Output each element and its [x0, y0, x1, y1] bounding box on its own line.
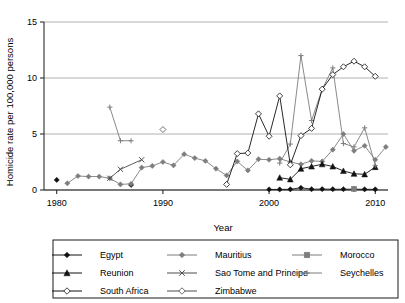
- marker-filled-diamond: [97, 174, 102, 179]
- x-tick-label-1980: 1980: [47, 198, 67, 208]
- x-tick-label-2000: 2000: [259, 198, 279, 208]
- marker-filled-diamond: [373, 187, 378, 192]
- marker-plus: [118, 138, 123, 143]
- marker-open-diamond: [160, 127, 166, 133]
- legend-item-reunion[interactable]: Reunion: [52, 268, 134, 278]
- legend-item-egypt[interactable]: Egypt: [52, 250, 124, 260]
- marker-filled-diamond: [118, 182, 123, 187]
- marker-filled-diamond: [330, 187, 335, 192]
- marker-filled-square: [304, 252, 310, 258]
- legend-label: Morocco: [340, 250, 375, 260]
- x-tick-label-2010: 2010: [365, 198, 385, 208]
- gridlines: [44, 22, 388, 190]
- legend-item-zimbabwe[interactable]: Zimbabwe: [167, 286, 257, 296]
- marker-filled-diamond: [362, 187, 367, 192]
- marker-plus: [362, 125, 367, 130]
- marker-plus: [288, 141, 293, 146]
- legend-label: Egypt: [100, 250, 124, 260]
- y-tick-label-10: 10: [27, 73, 37, 83]
- legend-item-south-africa[interactable]: South Africa: [52, 286, 149, 296]
- series-zimbabwe: [160, 127, 166, 133]
- legend-item-mauritius[interactable]: Mauritius: [167, 250, 252, 260]
- marker-filled-diamond: [277, 187, 282, 192]
- legend-label: Mauritius: [215, 250, 252, 260]
- y-axis-label: Homicide rate per 100,000 persons: [4, 38, 15, 187]
- axes: [44, 22, 388, 190]
- marker-filled-diamond: [64, 252, 70, 258]
- marker-filled-triangle: [341, 168, 347, 174]
- marker-open-diamond: [309, 125, 315, 131]
- y-tick-label-15: 15: [27, 17, 37, 27]
- legend-label: Seychelles: [340, 268, 384, 278]
- marker-plus: [330, 65, 335, 70]
- marker-filled-diamond: [309, 187, 314, 192]
- legend-label: Reunion: [100, 268, 134, 278]
- series-sao-tome-and-principe: [107, 157, 144, 181]
- marker-open-diamond: [255, 111, 261, 117]
- legend-item-morocco[interactable]: Morocco: [292, 250, 375, 260]
- series-morocco: [351, 186, 356, 191]
- marker-open-diamond: [319, 86, 325, 92]
- marker-open-diamond: [64, 288, 70, 294]
- marker-filled-triangle: [277, 175, 283, 181]
- marker-x-cross: [118, 167, 123, 172]
- x-axis-label: Year: [213, 222, 232, 233]
- series-line: [280, 164, 376, 179]
- marker-filled-diamond: [150, 163, 155, 168]
- marker-open-diamond: [234, 151, 240, 157]
- legend-entries: EgyptMauritiusMoroccoReunionSao Tome and…: [52, 250, 384, 296]
- marker-plus: [298, 53, 303, 58]
- x-tick-label-1990: 1990: [153, 198, 173, 208]
- marker-filled-diamond: [54, 177, 59, 182]
- series-line: [110, 107, 131, 141]
- marker-plus: [341, 141, 346, 146]
- series-seychelles: [107, 53, 378, 168]
- marker-filled-diamond: [86, 174, 91, 179]
- legend-label: South Africa: [100, 286, 149, 296]
- legend-label: Zimbabwe: [215, 286, 257, 296]
- marker-filled-diamond: [266, 187, 271, 192]
- data-series-layer: [54, 53, 388, 192]
- marker-x-cross: [139, 157, 144, 162]
- y-axis-ticks: 051015: [27, 17, 44, 195]
- marker-filled-diamond: [320, 187, 325, 192]
- legend-item-sao-tome-and-principe[interactable]: Sao Tome and Principe: [167, 268, 308, 278]
- marker-open-diamond: [179, 288, 185, 294]
- marker-open-diamond: [298, 133, 304, 139]
- marker-filled-diamond: [65, 181, 70, 186]
- marker-filled-diamond: [192, 155, 197, 160]
- marker-open-diamond: [277, 93, 283, 99]
- marker-plus: [277, 161, 282, 166]
- marker-filled-diamond: [266, 157, 271, 162]
- marker-filled-diamond: [288, 187, 293, 192]
- x-axis-ticks: 1980199020002010: [47, 190, 386, 208]
- series-mauritius: [65, 131, 389, 187]
- marker-plus: [107, 105, 112, 110]
- marker-plus: [128, 138, 133, 143]
- marker-open-diamond: [224, 181, 230, 187]
- marker-open-diamond: [351, 58, 357, 64]
- marker-filled-diamond: [75, 173, 80, 178]
- marker-filled-diamond: [160, 159, 165, 164]
- marker-filled-diamond: [309, 158, 314, 163]
- marker-filled-square: [351, 186, 356, 191]
- y-tick-label-5: 5: [32, 129, 37, 139]
- marker-open-diamond: [245, 150, 251, 156]
- homicide-rate-chart: 051015 1980199020002010 Homicide rate pe…: [0, 0, 405, 303]
- marker-filled-diamond: [179, 252, 185, 258]
- marker-filled-diamond: [139, 165, 144, 170]
- y-tick-label-0: 0: [32, 185, 37, 195]
- marker-filled-diamond: [341, 187, 346, 192]
- series-line: [280, 56, 376, 166]
- chart-canvas: 051015 1980199020002010 Homicide rate pe…: [0, 0, 405, 303]
